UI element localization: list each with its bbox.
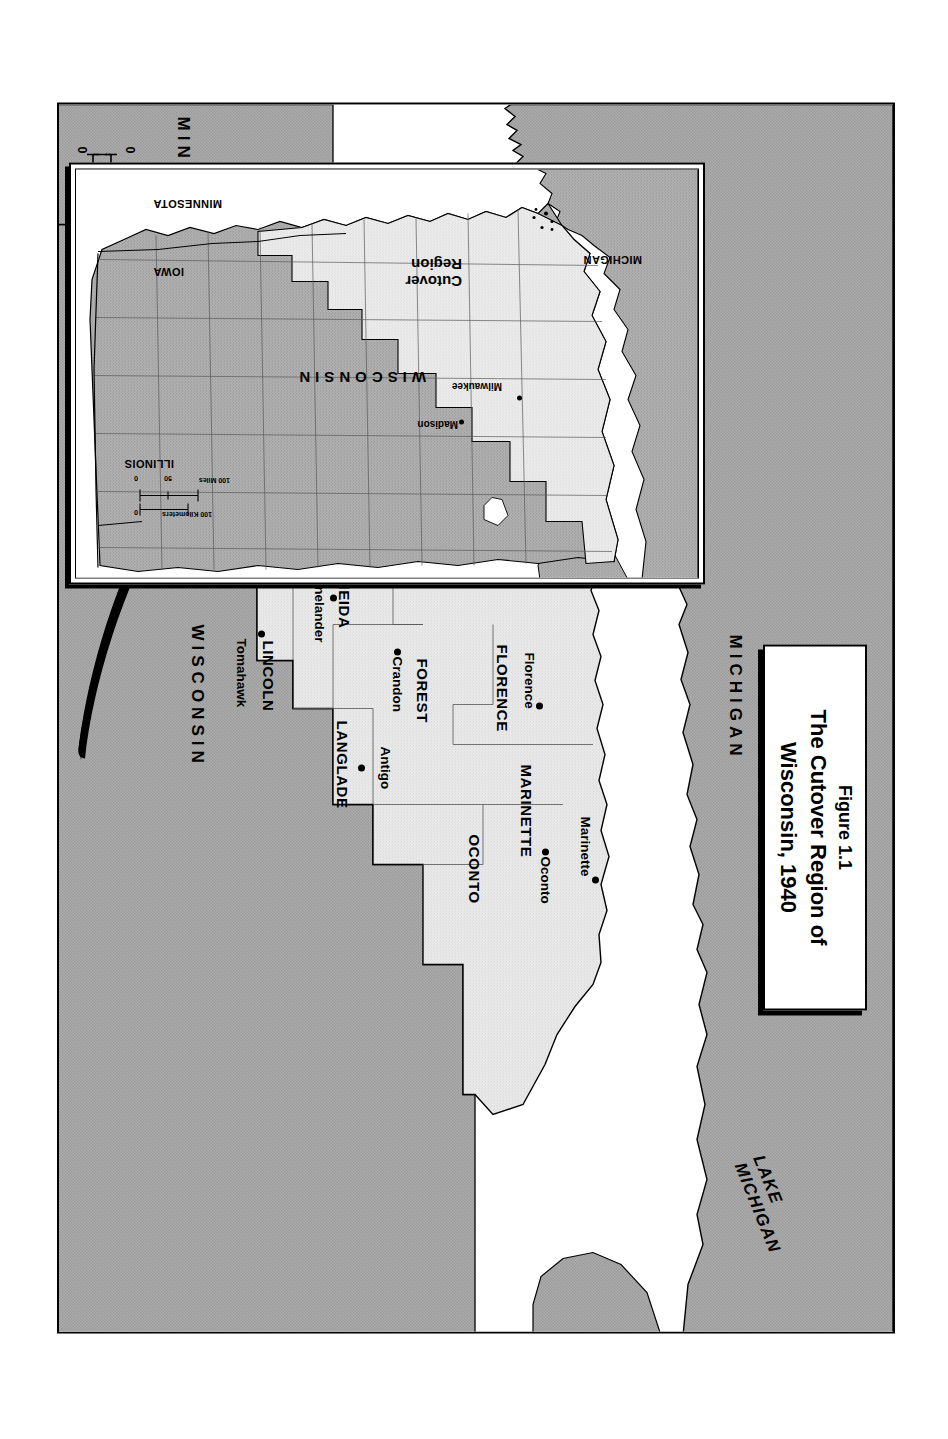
- inset-dot-milwaukee: [517, 395, 522, 400]
- figure-title: The Cutover Region of Wisconsin, 1940: [773, 662, 832, 992]
- inset-scale-zero-right: 0: [134, 508, 138, 515]
- inset-label-michigan: MICHIGAN: [583, 253, 642, 265]
- inset-scale-tick-mid: 50: [164, 474, 172, 481]
- inset-label-wisconsin: WISCONSIN: [294, 368, 426, 385]
- city-label-crandon: Crandon: [390, 656, 405, 712]
- inset-label-milwaukee: Milwaukee: [452, 380, 502, 391]
- inset-label-madison: Madison: [417, 418, 458, 429]
- inset-map: MICHIGAN MINNESOTA IOWA ILLINOIS WISCONS…: [69, 162, 705, 584]
- inset-label-cutover-region: Cutover Region: [405, 255, 462, 290]
- county-label-forest: FOREST: [414, 658, 431, 722]
- county-label-langlade: LANGLADE: [334, 720, 351, 808]
- inset-label-illinois: ILLINOIS: [124, 457, 174, 469]
- city-label-marinette: Marinette: [578, 816, 593, 876]
- city-dot-oconto: [542, 848, 549, 855]
- inset-dot-madison: [459, 419, 464, 424]
- county-label-florence: FLORENCE: [494, 644, 511, 731]
- inset-scale-miles-label: 100 Miles: [199, 476, 230, 483]
- figure-number: Figure 1.1: [833, 662, 857, 992]
- inset-label-iowa: IOWA: [153, 265, 184, 277]
- county-label-oconto: OCONTO: [466, 834, 483, 903]
- inset-label-minnesota: MINNESOTA: [153, 197, 222, 209]
- scale-zero-bottom: 0: [75, 146, 89, 153]
- scale-zero-top: 0: [123, 146, 137, 153]
- rotated-figure-wrapper: LAKE SUPERIOR LAKE MICHIGAN MICHIGAN WIS…: [53, 102, 895, 1337]
- inset-scale-zero-left: 0: [134, 474, 138, 481]
- map-frame: LAKE SUPERIOR LAKE MICHIGAN MICHIGAN WIS…: [57, 102, 895, 1333]
- city-label-antigo: Antigo: [378, 746, 393, 789]
- figure-canvas: LAKE SUPERIOR LAKE MICHIGAN MICHIGAN WIS…: [0, 0, 948, 1439]
- city-dot-crandon: [394, 648, 401, 655]
- city-label-florence: Florence: [522, 652, 537, 708]
- inset-map-inner: MICHIGAN MINNESOTA IOWA ILLINOIS WISCONS…: [75, 168, 699, 578]
- michigan-state-label: MICHIGAN: [725, 634, 745, 760]
- city-dot-antigo: [358, 764, 365, 771]
- title-block: Figure 1.1 The Cutover Region of Wiscons…: [763, 644, 867, 1010]
- inset-scale-km-label: 100 Kilometers: [162, 510, 212, 517]
- city-label-oconto: Oconto: [538, 856, 553, 903]
- inset-cutover-line1: Cutover: [405, 272, 462, 289]
- inset-cutover-line2: Region: [405, 255, 462, 272]
- county-label-marinette: MARINETTE: [518, 764, 535, 857]
- city-dot-marinette: [592, 876, 599, 883]
- city-dot-florence: [536, 702, 543, 709]
- city-dot-rhinelander: [330, 594, 337, 601]
